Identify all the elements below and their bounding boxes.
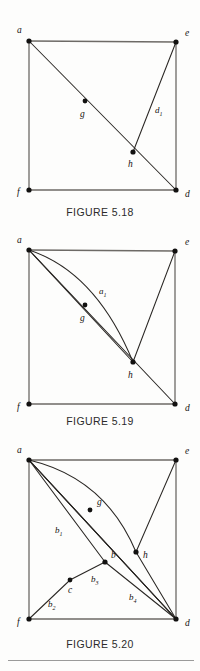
edge-label-a1: a1 xyxy=(99,286,107,298)
edge-e-h xyxy=(133,251,175,362)
vertex-label-c: c xyxy=(68,585,73,595)
vertex-label-g: g xyxy=(97,497,102,507)
vertex-a-dot xyxy=(26,457,31,462)
figure-page: a e f d g h d1 FIGURE 5.18 xyxy=(0,0,200,671)
vertex-a-dot xyxy=(26,247,31,252)
edge-e-h xyxy=(133,42,176,152)
vertex-g-dot xyxy=(88,508,93,513)
vertex-h-dot xyxy=(133,549,138,554)
edge-a-e xyxy=(29,41,176,42)
vertex-label-h: h xyxy=(143,550,148,560)
page-bottom-rule xyxy=(8,660,194,661)
vertex-g-dot xyxy=(83,99,88,104)
figure-5-18-caption: FIGURE 5.18 xyxy=(0,206,200,218)
edge-a-d-diagonal xyxy=(29,41,176,190)
edge-a-h-curve xyxy=(29,460,136,552)
vertex-b-dot xyxy=(102,559,107,564)
edge-f-c-b xyxy=(29,562,105,619)
figure-5-19-caption: FIGURE 5.19 xyxy=(0,415,200,427)
figure-5-19: a e f d g h a1 FIGURE 5.19 xyxy=(0,225,200,430)
vertex-label-f: f xyxy=(17,187,21,197)
vertex-label-e: e xyxy=(185,446,189,456)
vertex-e-dot xyxy=(173,39,178,44)
vertex-a-dot xyxy=(26,38,31,43)
figure-5-20-caption: FIGURE 5.20 xyxy=(0,638,200,650)
edge-a-h-straight xyxy=(29,250,133,362)
vertex-label-d: d xyxy=(185,618,190,628)
edge-e-h xyxy=(136,460,176,552)
vertex-label-b: b xyxy=(111,550,116,560)
vertex-e-dot xyxy=(172,248,177,253)
edge-b-d xyxy=(105,562,176,619)
vertex-label-e: e xyxy=(185,237,189,247)
vertex-label-a: a xyxy=(17,25,22,35)
vertex-label-f: f xyxy=(17,402,21,412)
edge-a-e xyxy=(29,250,175,251)
vertex-c-dot xyxy=(68,578,73,583)
figure-5-19-graph: a e f d g h a1 xyxy=(0,225,200,415)
edge-label-b1: b1 xyxy=(55,525,63,537)
edge-a-d-fan xyxy=(29,460,176,619)
vertex-label-d: d xyxy=(185,189,190,199)
vertex-f-dot xyxy=(26,616,31,621)
vertex-label-g: g xyxy=(80,109,85,119)
edge-label-b2: b2 xyxy=(48,599,56,611)
figure-5-18-graph: a e f d g h d1 xyxy=(0,0,200,200)
vertex-f-dot xyxy=(26,401,31,406)
edge-label-b4: b4 xyxy=(129,592,137,604)
vertex-label-d: d xyxy=(185,403,190,413)
figure-5-18: a e f d g h d1 FIGURE 5.18 xyxy=(0,0,200,225)
edge-a-b xyxy=(29,460,105,562)
edge-label-b3: b3 xyxy=(91,574,99,586)
vertex-label-a: a xyxy=(17,445,22,455)
vertex-e-dot xyxy=(173,457,178,462)
vertex-d-dot xyxy=(172,401,177,406)
vertex-d-dot xyxy=(173,616,178,621)
vertex-label-f: f xyxy=(17,617,21,627)
figure-5-20-graph: a e f d g h b c b1 b2 b3 b4 xyxy=(0,430,200,635)
vertex-d-dot xyxy=(173,187,178,192)
vertex-label-h: h xyxy=(128,370,133,380)
edge-h-d xyxy=(136,552,176,619)
vertex-label-g: g xyxy=(80,313,85,323)
vertex-label-a: a xyxy=(17,235,22,245)
vertex-label-h: h xyxy=(128,159,133,169)
figure-5-20: a e f d g h b c b1 b2 b3 b4 FIGURE 5.20 xyxy=(0,430,200,671)
vertex-g-dot xyxy=(83,303,88,308)
edge-label-d1: d1 xyxy=(155,105,163,117)
vertex-h-dot xyxy=(130,359,135,364)
vertex-h-dot xyxy=(130,149,135,154)
vertex-f-dot xyxy=(26,187,31,192)
vertex-label-e: e xyxy=(185,28,189,38)
